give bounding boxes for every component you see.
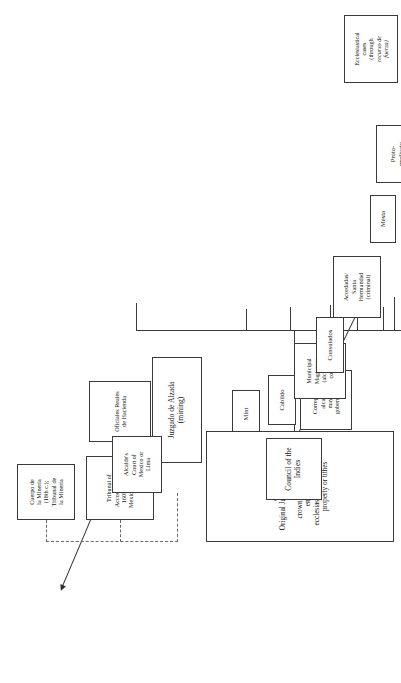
diagram-stage: Cuerpo de la Minería (18th c.); Tribunal… xyxy=(0,0,401,683)
juzgado-line-2: (mining) xyxy=(176,397,185,424)
branch-corregidor xyxy=(290,307,291,331)
node-mesta[interactable]: Mesta xyxy=(370,195,396,243)
node-protomedicato[interactable]: Proto- medicato xyxy=(376,125,401,183)
dashed-spine xyxy=(46,541,178,542)
cuerpo-line-4: Tribunal de xyxy=(50,478,57,506)
cuerpo-line-2: la Minería xyxy=(35,479,42,505)
node-ecclesiastical-cases[interactable]: Ecclesiastical cases (through recurso de… xyxy=(344,15,398,83)
alcaldes-line-2: Court of xyxy=(130,454,137,475)
node-alcaldes-court[interactable]: Alcalde's Court of Mexico or Lima xyxy=(112,436,162,493)
eccl-line-5: fuerza) xyxy=(382,40,389,58)
dashed-branch-cuerpo xyxy=(46,520,47,542)
oficiales-line-2: de Hacienda xyxy=(120,396,127,427)
eccl-line-4: recurso de xyxy=(375,36,382,62)
cabildo-label: Cabildo xyxy=(278,379,286,421)
eccl-line-3: (through xyxy=(367,38,374,59)
consulados-label: Consulados xyxy=(326,321,334,369)
acordadas-line-3: Hermandad xyxy=(357,273,364,302)
eccl-line-2: cases xyxy=(360,42,367,55)
acordadas-line-4: (criminal) xyxy=(364,275,371,300)
audiencia-spine-lower xyxy=(394,330,401,331)
node-oficiales-reales-de-hacienda[interactable]: Oficiales Reales de Hacienda xyxy=(89,381,151,442)
node-consulados[interactable]: Consulados xyxy=(316,317,344,373)
cuerpo-line-5: la Minería xyxy=(57,479,64,505)
branch-mesta xyxy=(383,307,384,331)
branch-protomedicato xyxy=(394,297,395,331)
acordadas-line-2: Santa xyxy=(350,280,357,294)
cuerpo-line-3: (18th c.); xyxy=(42,481,49,504)
eccl-line-1: Ecclesiastical xyxy=(353,32,360,66)
node-cabildo[interactable]: Cabildo xyxy=(268,375,296,425)
branch-alcaldes-court xyxy=(136,303,137,331)
audiencia-spine xyxy=(136,330,394,331)
arrowhead-juzgado xyxy=(58,584,66,592)
municipal-line-1: Municipal xyxy=(305,358,312,383)
mesta-label: Mesta xyxy=(379,199,387,239)
node-cuerpo-de-la-mineria[interactable]: Cuerpo de la Minería (18th c.); Tribunal… xyxy=(17,464,75,520)
cuerpo-line-1: Cuerpo de xyxy=(28,479,35,505)
dashed-audiencia-to-juzgado xyxy=(177,493,178,542)
alcaldes-line-3: Mexico or xyxy=(137,452,144,478)
node-acordadas-santa-hermandad[interactable]: Acordadas/ Santa Hermandad (criminal) xyxy=(333,256,381,318)
protomedicato-line-1: Proto- xyxy=(389,146,396,162)
council-label: Council of the Indies xyxy=(285,442,303,496)
mint-label: Mint xyxy=(242,394,250,434)
acordadas-line-1: Acordadas/ xyxy=(342,273,349,301)
oficiales-line-1: Oficiales Reales xyxy=(113,391,120,431)
diagram-canvas: Cuerpo de la Minería (18th c.); Tribunal… xyxy=(0,0,401,683)
branch-mint xyxy=(246,309,247,331)
dashed-branch-tribunal xyxy=(120,520,121,542)
node-council-of-the-indies[interactable]: Council of the Indies xyxy=(266,438,322,500)
alcaldes-line-1: Alcalde's xyxy=(122,453,129,476)
alcaldes-line-4: Lima xyxy=(144,458,151,471)
juzgado-line-1: Juzgado de Alzada xyxy=(167,382,176,439)
protomedicato-line-2: medicato xyxy=(397,142,401,166)
